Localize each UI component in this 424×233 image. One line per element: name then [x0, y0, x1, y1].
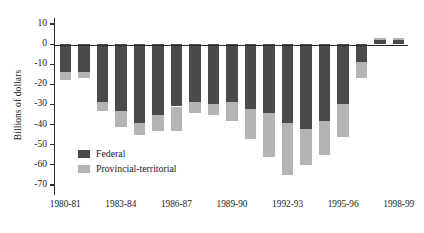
bar-segment-federal: [263, 44, 274, 112]
y-tick-10: [50, 23, 55, 24]
bar-segment-provincial-territorial: [393, 38, 404, 40]
y-tick-label: 10: [38, 19, 48, 29]
x-tick-label: 1983-84: [105, 199, 136, 209]
x-tick-label: 1992-93: [272, 199, 303, 209]
bar-segment-provincial-territorial: [337, 104, 348, 136]
x-tick-label: 1989-90: [217, 199, 248, 209]
bar-segment-provincial-territorial: [134, 123, 145, 135]
bar-segment-provincial-territorial: [245, 109, 256, 139]
y-tick-neg70: [50, 184, 55, 185]
bar-segment-provincial-territorial: [97, 102, 108, 110]
bar-segment-provincial-territorial: [374, 38, 385, 40]
bar-segment-federal: [171, 44, 182, 106]
y-tick-label: -30: [34, 99, 47, 109]
bar-segment-federal: [356, 44, 367, 62]
y-tick-neg20: [50, 84, 55, 85]
x-axis-labels: 1980-811983-841986-871989-901992-931995-…: [56, 199, 408, 217]
y-tick-neg10: [50, 64, 55, 65]
bar-segment-provincial-territorial: [263, 113, 274, 157]
y-tick-label: -60: [34, 160, 47, 170]
bar-segment-provincial-territorial: [60, 72, 71, 80]
bar-segment-provincial-territorial: [226, 102, 237, 120]
y-tick-neg60: [50, 164, 55, 165]
bar-segment-federal: [208, 44, 219, 104]
bar-segment-federal: [245, 44, 256, 108]
legend-swatch-provincial-territorial: [78, 165, 90, 173]
bar-segment-provincial-territorial: [115, 111, 126, 127]
x-tick-label: 1995-96: [328, 199, 359, 209]
bar-segment-federal: [189, 44, 200, 102]
bar-segment-federal: [134, 44, 145, 122]
chart-legend: Federal Provincial-territorial: [78, 147, 177, 177]
bar-segment-federal: [300, 44, 311, 128]
bar-segment-federal: [319, 44, 330, 120]
bar-segment-provincial-territorial: [356, 62, 367, 78]
y-tick-label: 0: [42, 39, 47, 49]
bar-segment-federal: [78, 44, 89, 72]
bar-segment-federal: [282, 44, 293, 122]
y-axis-title: Billions of dollars: [13, 35, 23, 175]
y-axis-title-container: Billions of dollars: [0, 0, 22, 233]
y-tick-neg40: [50, 124, 55, 125]
legend-label-federal: Federal: [96, 149, 125, 159]
bar-segment-provincial-territorial: [78, 72, 89, 78]
bar-segment-provincial-territorial: [300, 129, 311, 165]
legend-item-federal: Federal: [78, 147, 177, 160]
bar-segment-federal: [337, 44, 348, 104]
bar-segment-provincial-territorial: [208, 104, 219, 114]
y-tick-label: -50: [34, 140, 47, 150]
x-tick-label: 1998-99: [383, 199, 414, 209]
legend-label-provincial-territorial: Provincial-territorial: [96, 164, 177, 174]
zero-baseline: [54, 45, 408, 46]
legend-swatch-federal: [78, 150, 90, 158]
chart-root: Billions of dollars 100-10-20-30-40-50-6…: [0, 0, 424, 233]
bar-segment-provincial-territorial: [319, 121, 330, 155]
bar-segment-federal: [152, 44, 163, 114]
y-tick-0: [50, 44, 55, 45]
legend-item-provincial-territorial: Provincial-territorial: [78, 162, 177, 175]
y-tick-label: -40: [34, 120, 47, 130]
bar-segment-provincial-territorial: [171, 107, 182, 131]
bar-segment-provincial-territorial: [152, 115, 163, 131]
bar-segment-federal: [97, 44, 108, 102]
bar-segment-federal: [60, 44, 71, 72]
bar-segment-federal: [115, 44, 126, 110]
y-tick-neg30: [50, 104, 55, 105]
bar-segment-provincial-territorial: [282, 123, 293, 175]
x-tick-label: 1986-87: [161, 199, 192, 209]
y-tick-label: -70: [34, 180, 47, 190]
y-tick-neg50: [50, 144, 55, 145]
bar-segment-federal: [226, 44, 237, 102]
y-tick-label: -10: [34, 59, 47, 69]
bar-segment-provincial-territorial: [189, 102, 200, 112]
y-tick-label: -20: [34, 79, 47, 89]
x-tick-label: 1980-81: [50, 199, 81, 209]
